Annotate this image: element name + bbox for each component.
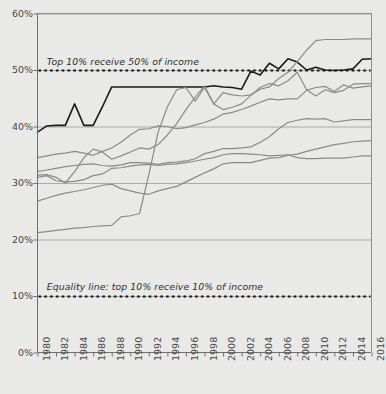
x-tick-label: 1996 bbox=[190, 336, 200, 360]
annotation-equality-line: Equality line: top 10% receive 10% of in… bbox=[47, 281, 263, 292]
x-tick-label: 1988 bbox=[116, 336, 126, 360]
x-tick-label: 1990 bbox=[134, 336, 144, 360]
x-tick-label: 1980 bbox=[42, 336, 52, 360]
x-tick-label: 1998 bbox=[209, 336, 219, 360]
x-tick-label: 2000 bbox=[227, 336, 237, 360]
y-tick-label: 30% bbox=[5, 178, 33, 188]
x-tick-label: 2006 bbox=[283, 336, 293, 360]
y-axis-labels: 0%10%20%30%40%50%60% bbox=[0, 0, 33, 394]
x-tick-label: 2016 bbox=[376, 336, 386, 360]
y-tick-label: 20% bbox=[5, 235, 33, 245]
x-tick-label: 1994 bbox=[171, 336, 181, 360]
x-tick-label: 2014 bbox=[357, 336, 367, 360]
x-tick-label: 1984 bbox=[79, 336, 89, 360]
y-tick-label: 60% bbox=[5, 9, 33, 19]
y-tick-label: 0% bbox=[5, 348, 33, 358]
annotation-top-50: Top 10% receive 50% of income bbox=[47, 56, 199, 67]
chart-figure: 0%10%20%30%40%50%60% Top 10% receive 50%… bbox=[0, 0, 386, 394]
x-tick-label: 2008 bbox=[301, 336, 311, 360]
y-tick-label: 50% bbox=[5, 65, 33, 75]
y-tick-label: 40% bbox=[5, 122, 33, 132]
x-tick-label: 1982 bbox=[60, 336, 70, 360]
x-tick-label: 2010 bbox=[320, 336, 330, 360]
y-tick-label: 10% bbox=[5, 291, 33, 301]
x-tick-label: 2004 bbox=[264, 336, 274, 360]
x-tick-label: 2002 bbox=[246, 336, 256, 360]
x-tick-label: 1986 bbox=[97, 336, 107, 360]
x-tick-label: 2012 bbox=[338, 336, 348, 360]
x-tick-label: 1992 bbox=[153, 336, 163, 360]
